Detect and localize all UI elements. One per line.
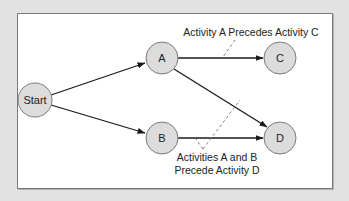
diagram-panel [18, 14, 333, 189]
node-b-label: B [158, 132, 165, 144]
node-a-label: A [158, 52, 166, 64]
diagram-stage: Start A B C D Activity A Precedes Activi… [0, 0, 349, 201]
node-b: B [146, 122, 178, 154]
annotation-ab-precede-d-line2: Precede Activity D [174, 164, 260, 176]
precedence-diagram: Start A B C D Activity A Precedes Activi… [0, 0, 349, 201]
node-a: A [146, 42, 178, 74]
node-c: C [264, 42, 296, 74]
node-start: Start [18, 83, 52, 117]
annotation-ab-precede-d-line1: Activities A and B [177, 151, 258, 163]
node-d-label: D [276, 132, 284, 144]
node-start-label: Start [23, 94, 46, 106]
node-d: D [264, 122, 296, 154]
node-c-label: C [276, 52, 284, 64]
annotation-a-precedes-c: Activity A Precedes Activity C [183, 26, 319, 38]
